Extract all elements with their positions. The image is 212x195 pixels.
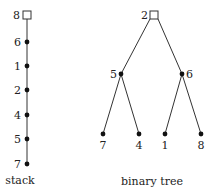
tree-edge xyxy=(103,74,121,134)
stack-node xyxy=(25,40,30,45)
tree-leaf-label: 1 xyxy=(162,139,169,152)
tree-leaf xyxy=(199,132,204,137)
tree-root-square xyxy=(150,11,158,19)
stack-label: 1 xyxy=(14,60,21,73)
stack-label: 8 xyxy=(13,9,20,22)
stack-node xyxy=(25,113,30,118)
stack-diagram: 8 6 1 2 4 5 7 stack xyxy=(5,9,35,187)
diagram-canvas: 8 6 1 2 4 5 7 stack 2 5 6 7 4 1 8 binary… xyxy=(0,0,212,195)
tree-edge xyxy=(165,74,182,134)
tree-left-label: 5 xyxy=(110,68,117,81)
stack-label: 4 xyxy=(14,109,21,122)
stack-node xyxy=(25,137,30,142)
stack-node xyxy=(25,88,30,93)
stack-label: 2 xyxy=(14,84,21,97)
tree-leaf-label: 4 xyxy=(136,139,143,152)
tree-root-label: 2 xyxy=(141,9,148,22)
stack-node xyxy=(25,162,30,167)
tree-edge xyxy=(158,19,182,74)
tree-edge xyxy=(182,74,201,134)
tree-node-right xyxy=(180,72,185,77)
stack-label: 7 xyxy=(14,158,21,171)
tree-right-label: 6 xyxy=(186,68,193,81)
tree-leaf xyxy=(137,132,142,137)
stack-node xyxy=(25,64,30,69)
tree-node-left xyxy=(119,72,124,77)
tree-edge xyxy=(121,74,139,134)
binary-tree-diagram: 2 5 6 7 4 1 8 binary tree xyxy=(100,9,205,188)
tree-leaf xyxy=(101,132,106,137)
tree-edge xyxy=(121,19,150,74)
tree-leaf xyxy=(163,132,168,137)
stack-caption: stack xyxy=(5,174,35,187)
tree-leaf-label: 7 xyxy=(100,139,107,152)
stack-top-square xyxy=(23,11,31,19)
stack-label: 6 xyxy=(14,36,21,49)
tree-caption: binary tree xyxy=(121,175,183,188)
stack-label: 5 xyxy=(14,133,21,146)
tree-leaf-label: 8 xyxy=(198,139,205,152)
